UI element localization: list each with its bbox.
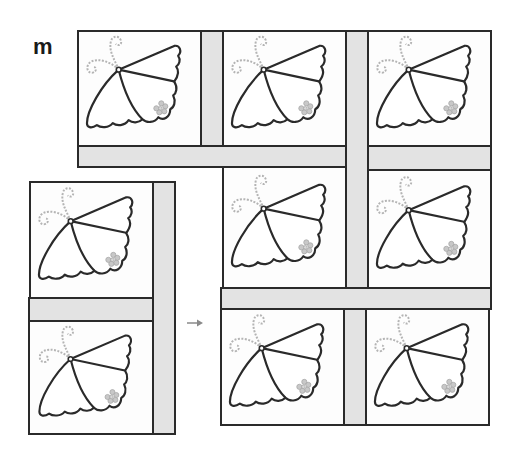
butterfly-icon xyxy=(30,322,152,433)
butterfly-block xyxy=(77,30,202,147)
figure-label: m xyxy=(33,36,53,58)
horizontal-sashing xyxy=(367,145,492,171)
butterfly-icon xyxy=(222,310,343,424)
horizontal-sashing xyxy=(28,297,154,322)
butterfly-icon xyxy=(31,183,152,297)
butterfly-block xyxy=(367,30,492,147)
butterfly-icon xyxy=(224,168,345,287)
arrow-right-icon xyxy=(186,318,206,328)
butterfly-icon xyxy=(224,32,345,145)
butterfly-block xyxy=(222,166,347,289)
butterfly-icon xyxy=(369,171,490,287)
vertical-sashing xyxy=(345,30,369,289)
butterfly-block xyxy=(365,308,490,426)
butterfly-icon xyxy=(367,310,488,424)
butterfly-icon xyxy=(369,32,490,145)
butterfly-block xyxy=(220,308,345,426)
butterfly-block xyxy=(367,169,492,289)
vertical-sashing xyxy=(152,181,176,435)
butterfly-block xyxy=(29,181,154,299)
butterfly-block xyxy=(222,30,347,147)
horizontal-sashing xyxy=(77,145,347,168)
vertical-sashing xyxy=(343,308,367,426)
horizontal-sashing xyxy=(220,287,492,310)
butterfly-block xyxy=(28,320,154,435)
vertical-sashing xyxy=(200,30,224,147)
butterfly-icon xyxy=(79,32,200,145)
